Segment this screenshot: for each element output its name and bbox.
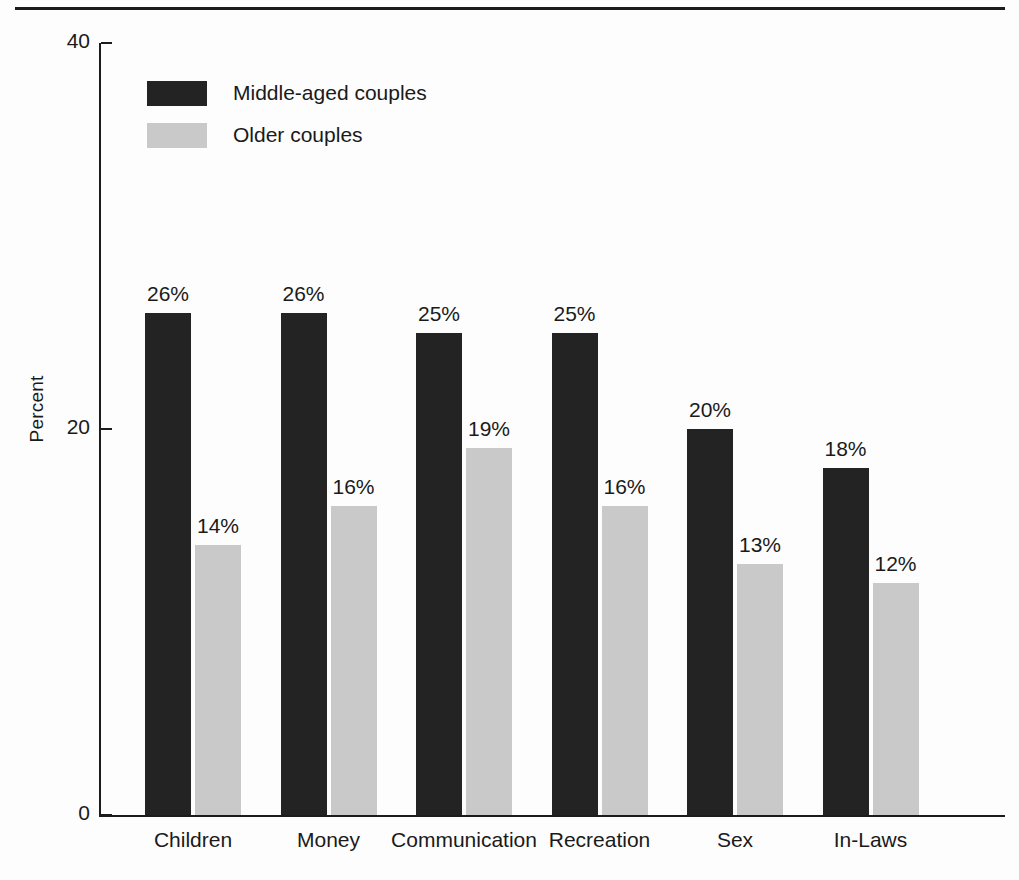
chart-page: 40200 Percent Middle-aged couplesOlder c…: [0, 0, 1019, 880]
bar: [416, 333, 462, 816]
bar-value-label: 19%: [449, 417, 529, 441]
bar-value-label: 26%: [128, 282, 208, 306]
bar-value-label: 13%: [720, 533, 800, 557]
bar: [602, 506, 648, 815]
bar-value-label: 20%: [670, 398, 750, 422]
category-label: In-Laws: [761, 828, 981, 852]
y-tick-mark: [101, 42, 112, 44]
bar: [281, 313, 327, 815]
bar: [466, 448, 512, 815]
bar: [145, 313, 191, 815]
bar: [552, 333, 598, 816]
y-tick-label: 0: [30, 801, 90, 825]
bar-value-label: 26%: [264, 282, 344, 306]
bar-value-label: 25%: [535, 302, 615, 326]
plot-area: 40200 Percent Middle-aged couplesOlder c…: [0, 0, 1019, 880]
bar-value-label: 12%: [856, 552, 936, 576]
bar-value-label: 16%: [585, 475, 665, 499]
legend-item: Older couples: [147, 118, 427, 152]
legend-item-label: Older couples: [233, 123, 363, 147]
bar-value-label: 25%: [399, 302, 479, 326]
y-axis-title: Percent: [26, 359, 48, 459]
chart-legend: Middle-aged couplesOlder couples: [147, 76, 427, 160]
bar: [823, 468, 869, 815]
bar-value-label: 14%: [178, 514, 258, 538]
bar: [737, 564, 783, 815]
bar: [195, 545, 241, 815]
legend-swatch-icon: [147, 123, 207, 148]
y-tick-mark: [101, 814, 112, 816]
bar: [873, 583, 919, 815]
x-axis-line: [99, 815, 1005, 817]
y-tick-mark: [101, 428, 112, 430]
legend-item-label: Middle-aged couples: [233, 81, 427, 105]
legend-swatch-icon: [147, 81, 207, 106]
y-tick-label: 40: [30, 29, 90, 53]
bar: [331, 506, 377, 815]
y-axis-line: [99, 43, 101, 817]
bar-value-label: 16%: [314, 475, 394, 499]
bar-value-label: 18%: [806, 437, 886, 461]
legend-item: Middle-aged couples: [147, 76, 427, 110]
bar: [687, 429, 733, 815]
